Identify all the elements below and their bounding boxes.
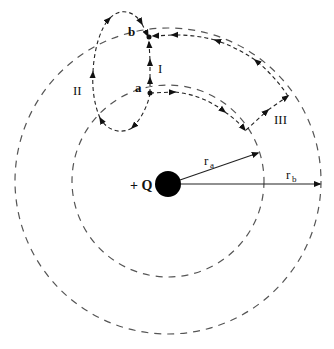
point-a <box>148 91 153 96</box>
path-III <box>150 35 288 130</box>
path-I <box>149 42 150 93</box>
path-II <box>93 12 150 131</box>
svg-text:r: r <box>204 153 209 168</box>
point-b <box>147 35 152 40</box>
svg-text:r: r <box>286 167 291 182</box>
diagram-canvas: + Q a b I II III r a r b <box>0 0 334 349</box>
ra-vector <box>180 153 258 180</box>
label-path-III: III <box>274 112 287 127</box>
svg-text:b: b <box>292 174 297 184</box>
label-rb: r b <box>286 167 297 184</box>
label-path-II: II <box>73 83 82 98</box>
label-a: a <box>135 80 142 95</box>
label-b: b <box>128 24 135 39</box>
charge <box>155 171 181 197</box>
label-path-I: I <box>158 61 162 76</box>
svg-text:a: a <box>210 160 214 170</box>
charge-label: + Q <box>130 178 152 193</box>
label-ra: r a <box>204 153 214 170</box>
